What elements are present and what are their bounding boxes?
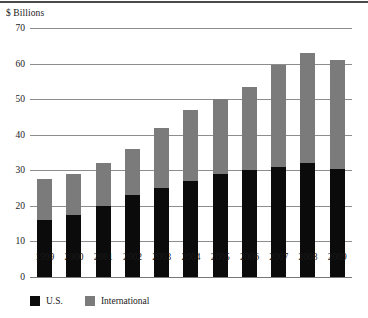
- bar-segment-us: [37, 220, 52, 277]
- x-axis-tick-label: 2002: [118, 252, 147, 262]
- x-axis-tick-label: 2005: [206, 252, 235, 262]
- bar-slot: [30, 28, 59, 277]
- x-axis-tick-label: 2000: [59, 252, 88, 262]
- bar-chart: $ Billions 706050403020100 1999200020012…: [0, 0, 368, 318]
- bar-segment-international: [300, 53, 315, 163]
- bar-segment-international: [125, 149, 140, 195]
- y-axis-tick-label: 30: [3, 165, 25, 175]
- plot-area: 706050403020100: [30, 28, 352, 277]
- bar-segment-us: [125, 195, 140, 277]
- x-axis-line: [30, 277, 352, 279]
- y-axis-tick-label: 10: [3, 236, 25, 246]
- bar-segment-international: [330, 60, 345, 168]
- top-rule: [0, 1, 368, 3]
- bar-segment-international: [154, 128, 169, 188]
- bar-group: [30, 28, 352, 277]
- bar-slot: [206, 28, 235, 277]
- bar-segment-international: [66, 174, 81, 215]
- bar-segment-international: [37, 179, 52, 220]
- y-axis-tick-label: 40: [3, 130, 25, 140]
- bar-segment-international: [242, 87, 257, 171]
- bar-slot: [118, 28, 147, 277]
- chart-legend: U.S.International: [30, 296, 171, 306]
- legend-label: U.S.: [46, 296, 63, 306]
- bar-segment-international: [271, 65, 286, 166]
- bar-segment-us: [183, 181, 198, 277]
- bar-segment-us: [154, 188, 169, 277]
- x-axis-tick-label: 2008: [293, 252, 322, 262]
- bar-slot: [264, 28, 293, 277]
- bar-slot: [59, 28, 88, 277]
- x-axis-tick-label: 2001: [89, 252, 118, 262]
- bar-segment-international: [213, 99, 228, 174]
- x-axis-tick-label: 2006: [235, 252, 264, 262]
- bar-segment-international: [96, 163, 111, 206]
- x-axis-tick-label: 2007: [264, 252, 293, 262]
- bar-slot: [235, 28, 264, 277]
- bar-slot: [323, 28, 352, 277]
- bar-segment-us: [96, 206, 111, 277]
- x-axis-tick-label: 2009: [323, 252, 352, 262]
- bar-slot: [89, 28, 118, 277]
- legend-label: International: [101, 296, 150, 306]
- x-axis-tick-label: 2004: [176, 252, 205, 262]
- bar-slot: [176, 28, 205, 277]
- legend-swatch-us: [30, 296, 40, 306]
- legend-item: International: [85, 296, 150, 306]
- bar-slot: [293, 28, 322, 277]
- y-axis-tick-label: 70: [3, 23, 25, 33]
- y-axis-tick-label: 0: [3, 272, 25, 282]
- legend-item: U.S.: [30, 296, 63, 306]
- bar-segment-us: [66, 215, 81, 277]
- y-axis-title: $ Billions: [6, 8, 44, 18]
- bar-segment-international: [183, 110, 198, 181]
- x-axis-tick-label: 2003: [147, 252, 176, 262]
- bar-slot: [147, 28, 176, 277]
- x-axis-tick-label: 1999: [30, 252, 59, 262]
- y-axis-tick-label: 50: [3, 94, 25, 104]
- legend-swatch-international: [85, 296, 95, 306]
- y-axis-tick-label: 20: [3, 201, 25, 211]
- y-axis-tick-label: 60: [3, 59, 25, 69]
